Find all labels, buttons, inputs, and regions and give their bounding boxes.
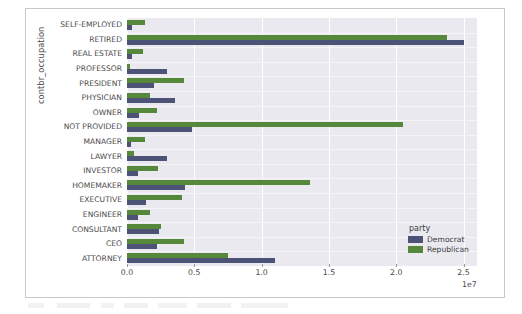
x-tick-mark [262,264,263,267]
bar-democrat [127,215,138,220]
x-tick-label: 2.5 [457,268,469,277]
bar-group [127,91,477,106]
y-tick-label: LAWYER [91,153,122,161]
x-tick-label: 2.0 [390,268,402,277]
y-tick-label: ATTORNEY [82,255,122,263]
bar-democrat [127,244,157,249]
y-tick-label: PRESIDENT [79,80,122,88]
y-tick-label: MANAGER [84,138,122,146]
bar-group [127,178,477,193]
legend-label-democrat: Democrat [427,235,465,244]
bar-democrat [127,25,132,30]
page-artifact-strip [28,303,288,308]
bar-democrat [127,98,175,103]
bar-democrat [127,258,275,263]
bar-group [127,193,477,208]
y-tick-label: PROFESSOR [76,65,122,73]
legend-item-republican: Republican [408,245,473,254]
legend-label-republican: Republican [427,245,469,254]
x-tick-label: 0.0 [121,268,133,277]
x-tick-label: 0.5 [188,268,200,277]
bar-group [127,47,477,62]
bar-group [127,120,477,135]
bar-group [127,164,477,179]
legend-title: party [409,224,473,233]
legend-swatch-democrat [408,236,423,243]
bar-group [127,33,477,48]
y-tick-label: NOT PROVIDED [64,123,122,131]
bar-group [127,76,477,91]
y-tick-label: PHYSICIAN [82,94,122,102]
x-tick-mark [194,264,195,267]
y-tick-label: HOMEMAKER [72,182,122,190]
bar-group [127,18,477,33]
x-axis-offset-text: 1e7 [462,280,477,289]
bar-democrat [127,113,139,118]
legend-swatch-republican [408,246,423,253]
y-tick-label: SELF-EMPLOYED [60,21,122,29]
bar-democrat [127,142,131,147]
bar-democrat [127,83,154,88]
y-tick-label: RETIRED [89,36,122,44]
bar-democrat [127,171,138,176]
x-tick-mark [127,264,128,267]
x-tick-mark [329,264,330,267]
x-tick-label: 1.0 [255,268,267,277]
y-tick-label: CEO [106,240,122,248]
x-tick-mark [396,264,397,267]
y-tick-label: CONSULTANT [72,226,122,234]
bar-democrat [127,69,167,74]
y-tick-label: REAL ESTATE [72,50,122,58]
x-tick-label: 1.5 [323,268,335,277]
x-axis-tick-labels: 0.00.51.01.52.02.5 [127,268,477,282]
bar-democrat [127,185,185,190]
legend: party Democrat Republican [404,222,476,258]
y-tick-label: ENGINEER [83,211,122,219]
bar-democrat [127,127,192,132]
bar-democrat [127,229,159,234]
chart-figure: contbr_occupation SELF-EMPLOYEDRETIREDRE… [0,0,522,314]
bar-group [127,135,477,150]
bar-group [127,62,477,77]
bar-democrat [127,156,167,161]
legend-item-democrat: Democrat [408,235,473,244]
x-tick-mark [464,264,465,267]
y-axis-tick-labels: SELF-EMPLOYEDRETIREDREAL ESTATEPROFESSOR… [0,18,122,266]
y-tick-label: EXECUTIVE [79,196,122,204]
bar-democrat [127,200,146,205]
bar-group [127,208,477,223]
bar-democrat [127,40,464,45]
bar-group [127,149,477,164]
y-tick-label: OWNER [93,109,122,117]
y-tick-label: INVESTOR [83,167,122,175]
bar-group [127,106,477,121]
bar-democrat [127,54,132,59]
